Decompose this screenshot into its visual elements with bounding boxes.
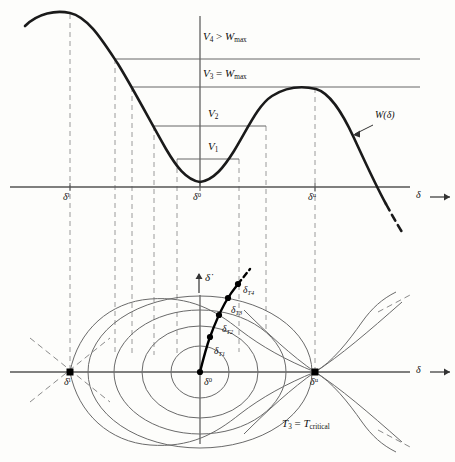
energy-curve-W-dashed-tail xyxy=(386,204,402,232)
lower-center-label-delta-0: δ0 xyxy=(204,377,212,387)
separatrix-upper-left-lobe xyxy=(70,299,315,372)
trajectory-label-delta-T1: δT1 xyxy=(214,347,225,357)
level-label-V2: V2 xyxy=(208,108,218,121)
separatrix-label-T3-critical: T3 = Tcritical xyxy=(282,418,330,431)
upper-tick-label-delta-0: δ0 xyxy=(193,192,201,202)
trajectory-label-delta-T3: δT3 xyxy=(231,306,242,316)
right-asymptote-b xyxy=(378,430,412,448)
level-label-V3: V3 = Wmax xyxy=(203,68,247,81)
trajectory-label-delta-T2: δT2 xyxy=(222,325,233,335)
level-label-V4: V4 > Wmax xyxy=(203,31,247,44)
separatrix-right-upper-branch xyxy=(315,292,396,372)
upper-tick-label-delta-u: δu xyxy=(308,192,316,202)
curve-label-W-delta: W(δ) xyxy=(375,110,395,120)
marker-delta-T4 xyxy=(235,281,241,287)
delta-dot-axis-arrow-icon xyxy=(196,273,203,293)
separatrix-diagonal-down xyxy=(315,372,402,442)
upper-axis-label-delta: δ xyxy=(416,190,421,200)
lower-axis-label-delta-dot: δ̇ xyxy=(205,272,210,283)
lower-x-axis-arrow-icon xyxy=(430,369,450,376)
lower-saddle-label-delta-u: δu xyxy=(310,377,318,387)
marker-delta-T1 xyxy=(207,334,213,340)
lower-plot-group xyxy=(10,269,450,452)
upper-x-axis-arrow-icon xyxy=(430,194,450,201)
trajectory-label-delta-T4: δT4 xyxy=(243,286,254,296)
separatrix-lower-left-lobe xyxy=(70,372,315,445)
separatrix-right-lower-branch xyxy=(315,372,396,452)
lower-axis-label-delta: δ xyxy=(416,365,421,375)
w-curve-leader-arrow-icon xyxy=(353,125,373,138)
figure-root: V4 > Wmax V3 = Wmax V2 V1 W(δ) δl δ0 δu … xyxy=(0,0,455,462)
marker-delta-0 xyxy=(197,369,203,375)
marker-delta-T2 xyxy=(216,312,222,318)
marker-delta-T3 xyxy=(225,295,231,301)
separatrix-diagonal-up xyxy=(315,302,402,372)
upper-tick-label-delta-l: δl xyxy=(63,192,70,202)
saddle-marker-delta-u xyxy=(312,369,319,376)
saddle-marker-delta-l xyxy=(67,369,74,376)
lower-saddle-label-delta-l: δl xyxy=(64,377,71,387)
upper-plot-group xyxy=(10,12,450,232)
right-asymptote-a xyxy=(378,294,412,312)
level-label-V1: V1 xyxy=(208,141,218,154)
